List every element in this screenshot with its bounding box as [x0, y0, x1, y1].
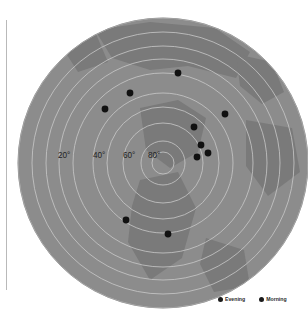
- scatter-point: [123, 217, 130, 224]
- legend-item-morning[interactable]: Morning: [259, 296, 286, 302]
- legend-label-evening: Evening: [225, 296, 245, 302]
- scatter-point: [102, 106, 109, 113]
- legend-item-evening[interactable]: Evening: [218, 296, 245, 302]
- scatter-point: [198, 142, 205, 149]
- scatter-point: [222, 111, 229, 118]
- scatter-point: [165, 231, 172, 238]
- polar-projection-panel: 20°40°60°80°: [0, 0, 308, 310]
- scatter-point: [205, 150, 212, 157]
- radial-tick-label: 40°: [93, 151, 105, 160]
- radial-tick-label: 80°: [148, 151, 160, 160]
- scatter-point: [175, 70, 182, 77]
- scatter-point: [191, 124, 198, 131]
- legend: Evening Morning: [218, 296, 308, 310]
- scatter-point: [194, 154, 201, 161]
- radial-tick-label: 60°: [123, 151, 135, 160]
- legend-marker-icon: [259, 297, 264, 302]
- polar-map-svg: 20°40°60°80°: [0, 0, 308, 310]
- legend-label-morning: Morning: [266, 296, 286, 302]
- scatter-point: [127, 90, 134, 97]
- radial-tick-label: 20°: [58, 151, 70, 160]
- polar-map-figure: 20°40°60°80° Evening Morning: [0, 0, 308, 310]
- legend-marker-icon: [218, 297, 223, 302]
